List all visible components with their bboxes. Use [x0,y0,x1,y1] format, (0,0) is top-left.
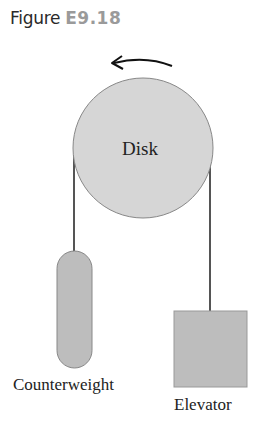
elevator [174,311,247,387]
counterweight-label: Counterweight [13,375,114,394]
rotation-arrow-icon [112,56,172,69]
counterweight [57,251,92,368]
elevator-label: Elevator [174,395,232,414]
disk-label: Disk [122,138,158,159]
pulley-diagram: Disk Counterweight Elevator [0,0,263,421]
